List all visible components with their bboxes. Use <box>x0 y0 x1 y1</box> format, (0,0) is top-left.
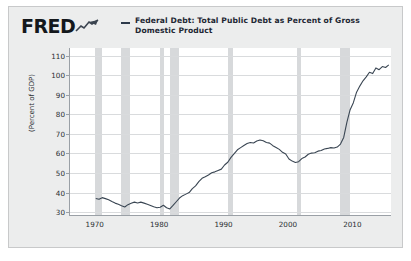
fred-chart-card: FRED Federal Debt: Total Public Debt as … <box>8 6 403 248</box>
y-axis-tick-label: 70 <box>35 130 65 139</box>
y-axis-tick-label: 40 <box>35 189 65 198</box>
legend-series-label: Federal Debt: Total Public Debt as Perce… <box>135 16 385 35</box>
y-axis-title: (Percent of GDP) <box>28 58 36 148</box>
fred-squiggle-icon <box>75 19 99 33</box>
y-axis-tick-label: 100 <box>35 71 65 80</box>
x-axis-tick-labels: 19701980199020002010 <box>69 220 399 232</box>
y-axis-tick-label: 30 <box>35 208 65 217</box>
series-line <box>70 48 391 215</box>
y-axis-tick-label: 80 <box>35 110 65 119</box>
chart-header: FRED Federal Debt: Total Public Debt as … <box>9 7 404 47</box>
legend-line-swatch <box>121 22 130 24</box>
x-axis-tick-label: 1970 <box>75 220 115 229</box>
x-axis-tick-label: 2000 <box>268 220 308 229</box>
x-axis-tick-label: 2010 <box>332 220 372 229</box>
y-axis-tick-label: 90 <box>35 91 65 100</box>
y-axis-tick-label: 110 <box>35 52 65 61</box>
plot-area <box>69 48 391 216</box>
y-axis-tick-label: 50 <box>35 169 65 178</box>
x-axis-tick-label: 1990 <box>204 220 244 229</box>
plot-inner <box>70 48 391 215</box>
fred-logo: FRED <box>21 15 75 37</box>
x-axis-tick-label: 1980 <box>139 220 179 229</box>
y-axis-tick-label: 60 <box>35 149 65 158</box>
